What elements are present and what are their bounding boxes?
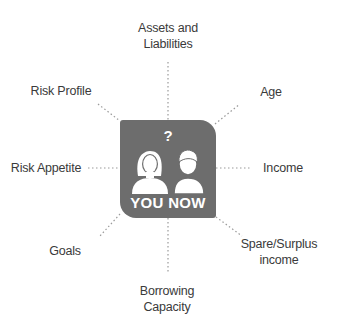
node-label: Capacity bbox=[140, 299, 194, 315]
node-label: Risk Profile bbox=[31, 83, 92, 99]
you-now-box: ? YOU NOW bbox=[120, 120, 216, 218]
node-risk-appetite: Risk Appetite bbox=[11, 160, 81, 176]
node-income: Income bbox=[263, 160, 303, 176]
node-label: Borrowing bbox=[140, 283, 194, 299]
node-label: Age bbox=[260, 84, 282, 100]
node-risk-profile: Risk Profile bbox=[31, 83, 92, 99]
node-assets-liabilities: Assets and Liabilities bbox=[138, 20, 198, 52]
node-borrowing-capacity: Borrowing Capacity bbox=[140, 283, 194, 315]
you-now-label: YOU NOW bbox=[120, 194, 216, 211]
node-label: income bbox=[241, 252, 318, 268]
node-age: Age bbox=[260, 84, 282, 100]
node-label: Income bbox=[263, 160, 303, 176]
two-people-icon bbox=[130, 142, 206, 194]
node-goals: Goals bbox=[49, 243, 81, 259]
node-label: Risk Appetite bbox=[11, 160, 81, 176]
node-label: Liabilities bbox=[138, 36, 198, 52]
node-spare-surplus-income: Spare/Surplus income bbox=[241, 236, 318, 268]
node-label: Goals bbox=[49, 243, 81, 259]
node-label: Assets and bbox=[138, 20, 198, 36]
node-label: Spare/Surplus bbox=[241, 236, 318, 252]
mind-map-diagram: Assets and Liabilities Age Income Spare/… bbox=[0, 0, 337, 332]
